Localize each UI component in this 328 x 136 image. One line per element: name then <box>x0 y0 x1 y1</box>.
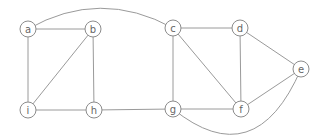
node-d: d <box>232 20 248 36</box>
node-a: a <box>20 21 36 37</box>
edge-h-g <box>94 109 173 110</box>
edge-c-f <box>173 28 241 109</box>
node-label: c <box>170 23 176 34</box>
edge-d-f <box>240 28 241 109</box>
nodes-layer: abcdefghi <box>20 20 309 118</box>
node-label: i <box>27 105 30 116</box>
node-label: a <box>25 24 31 35</box>
edge-d-e <box>240 28 301 69</box>
node-c: c <box>165 20 181 36</box>
edge-e-f <box>241 69 301 109</box>
node-label: b <box>90 24 96 35</box>
node-e: e <box>293 61 309 77</box>
node-f: f <box>233 101 249 117</box>
node-label: d <box>237 23 243 34</box>
edge-b-i <box>28 29 93 110</box>
node-b: b <box>85 21 101 37</box>
node-label: e <box>298 64 304 75</box>
node-i: i <box>20 102 36 118</box>
edges-layer <box>28 8 301 134</box>
node-h: h <box>86 102 102 118</box>
graph-diagram: abcdefghi <box>0 0 328 136</box>
node-label: h <box>91 105 97 116</box>
node-label: g <box>170 104 176 115</box>
node-label: f <box>239 104 243 115</box>
edge-b-h <box>93 29 94 110</box>
node-g: g <box>165 101 181 117</box>
